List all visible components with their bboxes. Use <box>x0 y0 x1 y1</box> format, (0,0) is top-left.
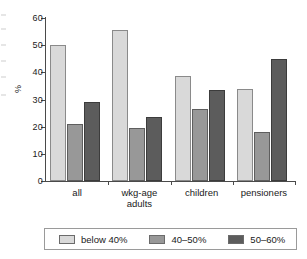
bar-2 <box>209 90 225 181</box>
y-tick-label: 10 <box>19 150 43 159</box>
bar-0 <box>237 89 253 181</box>
legend-item-0: below 40% <box>59 234 127 245</box>
x-axis-separator <box>108 181 109 185</box>
y-tick-label: 0 <box>19 177 43 186</box>
legend-item-2: 50–60% <box>228 234 285 245</box>
plot-area <box>46 18 295 181</box>
bar-group <box>108 18 170 181</box>
bar-2 <box>146 117 162 181</box>
legend-label-1: 40–50% <box>171 234 206 245</box>
bar-0 <box>175 76 191 181</box>
x-category-label-line2: adults <box>101 198 177 209</box>
y-tick-label: 50 <box>19 41 43 50</box>
bar-1 <box>192 109 208 181</box>
bar-0 <box>112 30 128 181</box>
x-axis-separator <box>171 181 172 185</box>
legend-swatch-0 <box>59 235 75 244</box>
bar-1 <box>254 132 270 181</box>
y-tick-label: 30 <box>19 96 43 105</box>
bar-chart-figure: % 6050403020100 allwkg-ageadultschildren… <box>0 0 307 259</box>
bar-2 <box>84 102 100 181</box>
y-axis-title: % <box>13 85 23 93</box>
bar-group <box>171 18 233 181</box>
bar-group <box>46 18 108 181</box>
legend-label-0: below 40% <box>81 234 127 245</box>
x-axis-separator-end <box>295 181 296 185</box>
chart-legend: below 40%40–50%50–60% <box>44 228 297 250</box>
bar-1 <box>129 128 145 181</box>
legend-label-2: 50–60% <box>250 234 285 245</box>
x-axis-separator <box>233 181 234 185</box>
bar-group <box>233 18 295 181</box>
x-category-label-line1: pensioners <box>226 187 302 198</box>
legend-swatch-2 <box>228 235 244 244</box>
legend-item-1: 40–50% <box>149 234 206 245</box>
scan-bleed-artifact <box>1 14 6 164</box>
x-category-label-3: pensioners <box>226 187 302 198</box>
legend-swatch-1 <box>149 235 165 244</box>
y-tick-label: 40 <box>19 68 43 77</box>
bar-1 <box>67 124 83 181</box>
bar-2 <box>271 59 287 181</box>
y-tick-label: 20 <box>19 123 43 132</box>
bar-0 <box>50 45 66 181</box>
y-tick-label: 60 <box>19 14 43 23</box>
